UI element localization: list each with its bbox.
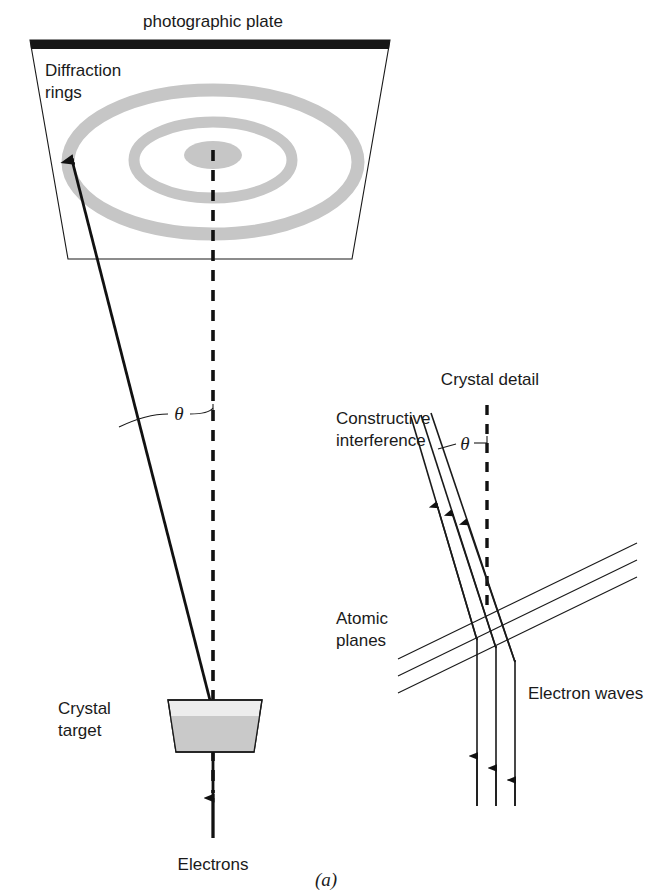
electrons-label: Electrons (178, 855, 249, 874)
figure-caption: (a) (315, 869, 337, 891)
figure-root: photographic plate Diffraction rings θ (0, 0, 653, 895)
theta-label-inset: θ (460, 433, 469, 454)
constructive-interference-label-line2: interference (336, 431, 426, 450)
crystal-detail-title: Crystal detail (441, 370, 539, 389)
constructive-interference-label-line1: Constructive (336, 409, 430, 428)
diffraction-rings-label-line1: Diffraction (45, 61, 121, 80)
crystal-target-label-line2: target (58, 721, 102, 740)
crystal-target (168, 700, 262, 752)
electron-waves-label: Electron waves (528, 684, 643, 703)
atomic-planes-label-line1: Atomic (336, 609, 388, 628)
atomic-planes-label-line2: planes (336, 631, 386, 650)
diffraction-rings-label-line2: rings (45, 83, 82, 102)
photographic-plate-label: photographic plate (143, 12, 283, 31)
crystal-target-label-line1: Crystal (58, 699, 111, 718)
crystal-target-shaded-fill (170, 716, 260, 751)
plate-top-black-edge (30, 40, 390, 49)
electron-diffraction-diagram: photographic plate Diffraction rings θ (0, 0, 653, 895)
theta-label-main: θ (174, 403, 183, 424)
